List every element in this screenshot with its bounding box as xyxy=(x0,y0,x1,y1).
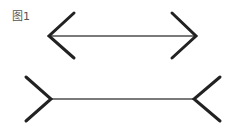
top-line-group xyxy=(49,13,196,58)
illusion-diagram xyxy=(0,0,238,136)
bottom-line-group xyxy=(26,77,220,121)
bottom-left-fin xyxy=(26,77,51,121)
muller-lyer-figure: 图1 xyxy=(0,0,238,136)
bottom-right-fin xyxy=(194,77,220,121)
